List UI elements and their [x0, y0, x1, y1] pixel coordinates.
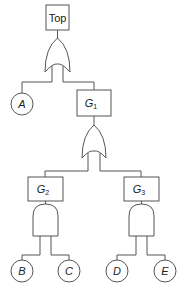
basic-event-e-label: E	[161, 265, 169, 277]
or-gate-top-icon	[45, 38, 70, 72]
basic-event-a: A	[11, 93, 33, 115]
and-gate-g2-icon	[33, 204, 58, 236]
intermediate-event-g3: G3	[124, 177, 159, 201]
intermediate-event-g1: G1	[77, 90, 111, 116]
basic-event-a-label: A	[17, 98, 25, 110]
fault-tree-diagram: Top A G1 G2 G3 B C	[0, 0, 185, 294]
basic-event-c-label: C	[65, 265, 73, 277]
basic-event-d: D	[106, 260, 128, 282]
basic-event-c: C	[58, 260, 80, 282]
or-gate-g1-icon	[82, 125, 106, 158]
basic-event-d-label: D	[113, 265, 121, 277]
basic-event-b: B	[11, 260, 33, 282]
basic-event-e: E	[154, 260, 176, 282]
top-event-label: Top	[49, 12, 67, 24]
basic-event-b-label: B	[18, 265, 25, 277]
intermediate-event-g2: G2	[28, 177, 63, 201]
top-event: Top	[46, 5, 69, 30]
and-gate-g3-icon	[129, 204, 154, 236]
